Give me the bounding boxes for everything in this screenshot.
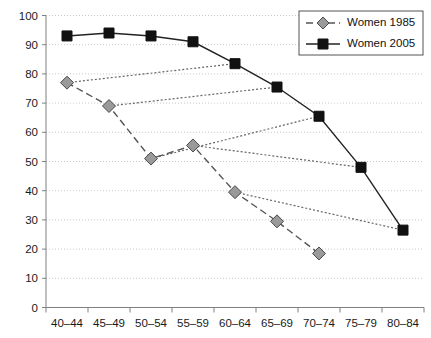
cohort-connector-lines [67, 64, 403, 230]
x-tick-label: 75–79 [345, 317, 377, 329]
data-point-marker [356, 162, 366, 172]
x-tick-label: 40–44 [51, 317, 84, 329]
data-point-marker [146, 31, 156, 41]
y-tick-label: 90 [25, 39, 38, 51]
data-point-marker [145, 152, 158, 165]
y-tick-label: 30 [25, 214, 38, 226]
x-tick-label: 60–64 [219, 317, 252, 329]
x-tick-label: 45–49 [93, 317, 125, 329]
data-point-marker [61, 76, 74, 89]
legend[interactable]: Women 1985Women 2005 [299, 11, 423, 55]
y-tick-label: 100 [19, 10, 38, 22]
y-tick-label: 50 [25, 156, 38, 168]
data-point-marker [313, 247, 326, 260]
x-axis-tick-labels: 40–4445–4950–5455–5960–6465–6970–7475–79… [51, 317, 420, 329]
legend-marker-sample [318, 39, 328, 49]
chart-container: 0102030405060708090100 40–4445–4950–5455… [0, 0, 431, 338]
data-point-marker [62, 31, 72, 41]
x-tick-label: 70–74 [303, 317, 336, 329]
data-point-marker [271, 215, 284, 228]
y-tick-label: 80 [25, 68, 38, 80]
cohort-connector-line [67, 64, 235, 83]
data-point-marker [398, 225, 408, 235]
data-point-marker [103, 100, 116, 113]
data-point-marker [230, 59, 240, 69]
data-point-marker [272, 82, 282, 92]
data-point-marker [104, 28, 114, 38]
x-tick-label: 65–69 [261, 317, 293, 329]
data-point-marker [188, 37, 198, 47]
data-markers [61, 28, 409, 260]
y-tick-label: 20 [25, 243, 38, 255]
legend-label[interactable]: Women 1985 [347, 16, 415, 28]
y-axis-tick-labels: 0102030405060708090100 [19, 10, 38, 314]
x-tick-label: 80–84 [387, 317, 420, 329]
y-tick-label: 60 [25, 126, 38, 138]
cohort-connector-line [193, 145, 361, 167]
y-tick-label: 40 [25, 185, 38, 197]
data-point-marker [314, 111, 324, 121]
legend-label[interactable]: Women 2005 [347, 37, 415, 49]
y-tick-label: 70 [25, 97, 38, 109]
y-tick-label: 0 [32, 302, 38, 314]
cohort-connector-line [235, 192, 403, 230]
line-chart: 0102030405060708090100 40–4445–4950–5455… [0, 0, 431, 338]
x-tick-label: 55–59 [177, 317, 209, 329]
x-tick-label: 50–54 [135, 317, 168, 329]
y-tick-label: 10 [25, 272, 38, 284]
cohort-connector-line [151, 116, 319, 158]
